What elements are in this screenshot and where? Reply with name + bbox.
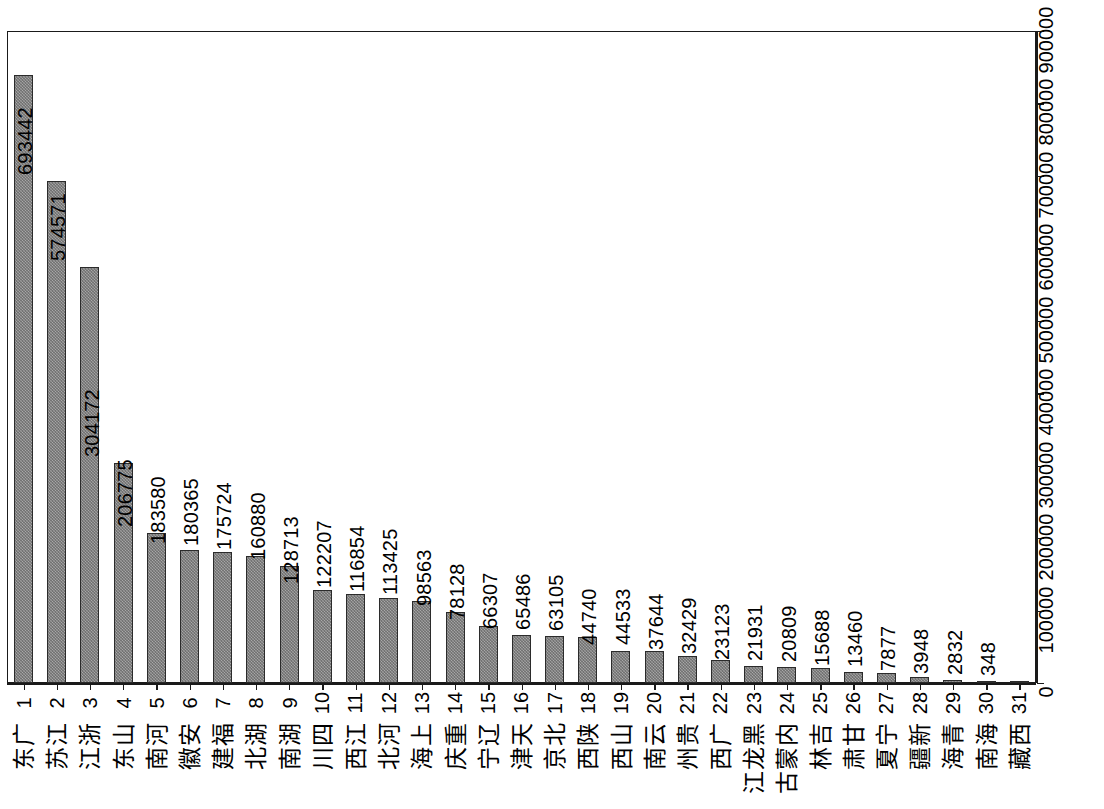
- category-name-label: 天津: [505, 722, 538, 770]
- bar-slot: 63105: [571, 31, 604, 683]
- bar-value-label: 65486: [513, 573, 533, 630]
- bar-value-label: 32429: [679, 597, 699, 654]
- bar-slot: 15688: [837, 31, 870, 683]
- bar[interactable]: [379, 598, 398, 683]
- category-name-label: 新疆: [903, 722, 936, 770]
- category-tick: [156, 683, 157, 690]
- bar-slot: 160880: [273, 31, 306, 683]
- category-tick: [654, 683, 655, 690]
- category-tick: [455, 683, 456, 690]
- category-rank-label: 3: [73, 692, 106, 714]
- bar-value-label: 113425: [380, 528, 400, 594]
- bar-value-label: 23123: [712, 604, 732, 661]
- bar-slot: 44533: [638, 31, 671, 683]
- category-rank-label: 17: [538, 692, 571, 714]
- value-tick-label: 700000: [1037, 152, 1055, 219]
- category-name-label: 四川: [306, 722, 339, 770]
- category-name-label: 宁夏: [870, 722, 903, 770]
- category-tick: [90, 683, 91, 690]
- bar[interactable]: [246, 556, 265, 683]
- bar-slot: 20809: [804, 31, 837, 683]
- bar[interactable]: [80, 267, 99, 683]
- category-name-label: 山西: [604, 722, 637, 770]
- category-rank-label: 24: [770, 692, 803, 714]
- bar[interactable]: [678, 656, 697, 683]
- category-tick: [123, 683, 124, 690]
- bar-slot: 13460: [870, 31, 903, 683]
- category-rank-label: 5: [140, 692, 173, 714]
- bar[interactable]: [711, 660, 730, 683]
- category-rank-label: 29: [936, 692, 969, 714]
- bar[interactable]: [844, 672, 863, 683]
- category-rank-label: 16: [505, 692, 538, 714]
- bar-value-label: 175724: [214, 482, 234, 550]
- category-tick: [289, 683, 290, 690]
- bar[interactable]: [611, 651, 630, 683]
- bar-value-label: 3948: [911, 629, 931, 674]
- bar-slot: 7877: [903, 31, 936, 683]
- category-tick: [1019, 683, 1020, 690]
- category-tick: [190, 683, 191, 690]
- bar[interactable]: [512, 635, 531, 683]
- bar[interactable]: [313, 590, 332, 683]
- bar-value-label: 693442: [15, 107, 35, 175]
- bar[interactable]: [147, 533, 166, 683]
- category-tick: [522, 683, 523, 690]
- category-name-label: 吉林: [804, 722, 837, 770]
- bar[interactable]: [479, 626, 498, 683]
- value-tick-label: 800000: [1037, 79, 1055, 146]
- category-rank-label: 11: [339, 692, 372, 714]
- bar-value-label: 122207: [314, 521, 334, 589]
- category-name-label: 湖南: [273, 722, 306, 770]
- bar[interactable]: [777, 667, 796, 683]
- bar-value-label: 574571: [48, 193, 68, 261]
- bar-slot: 348: [1003, 31, 1036, 683]
- bar[interactable]: [811, 668, 830, 683]
- bar[interactable]: [744, 666, 763, 683]
- bar[interactable]: [545, 636, 564, 683]
- bar[interactable]: [412, 601, 431, 683]
- category-tick: [721, 683, 722, 690]
- category-name-label: 浙江: [73, 722, 106, 770]
- category-name-label: 广西: [704, 722, 737, 770]
- category-tick: [754, 683, 755, 690]
- bar-value-label: 160880: [248, 493, 268, 561]
- value-tick-label: 300000: [1037, 441, 1055, 508]
- bar-slot: 32429: [704, 31, 737, 683]
- category-rank-label: 27: [870, 692, 903, 714]
- category-rank-label: 10: [306, 692, 339, 714]
- category-rank-label: 28: [903, 692, 936, 714]
- bar[interactable]: [645, 651, 664, 683]
- category-tick: [920, 683, 921, 690]
- bar[interactable]: [877, 673, 896, 683]
- category-tick: [57, 683, 58, 690]
- category-name-label: 海南: [970, 722, 1003, 770]
- bar-slot: 183580: [173, 31, 206, 683]
- category-rank-label: 26: [837, 692, 870, 714]
- category-rank-label: 22: [704, 692, 737, 714]
- category-rank-label: 9: [273, 692, 306, 714]
- bar-slot: 180365: [206, 31, 239, 683]
- bar-value-label: 20809: [779, 605, 799, 662]
- category-tick: [24, 683, 25, 690]
- bar-value-label: 21931: [745, 605, 765, 662]
- bar-slot: 21931: [770, 31, 803, 683]
- category-name-label: 贵州: [671, 722, 704, 770]
- bar[interactable]: [346, 594, 365, 683]
- category-rank-label: 19: [604, 692, 637, 714]
- bar-value-label: 66307: [480, 572, 500, 629]
- category-name-label: 内蒙古: [770, 722, 803, 794]
- bar[interactable]: [446, 612, 465, 683]
- bar-slot: 574571: [73, 31, 106, 683]
- category-name-label: 上海: [405, 722, 438, 770]
- category-tick: [787, 683, 788, 690]
- category-rank-label: 6: [173, 692, 206, 714]
- value-tick-label: 200000: [1037, 514, 1055, 581]
- bar-value-label: 206775: [115, 459, 135, 527]
- bar[interactable]: [180, 550, 199, 683]
- category-rank-label: 2: [40, 692, 73, 714]
- bar-value-label: 838891: [0, 1, 2, 69]
- bar-slot: 693442: [40, 31, 73, 683]
- bar-slot: 37644: [671, 31, 704, 683]
- bar[interactable]: [213, 552, 232, 683]
